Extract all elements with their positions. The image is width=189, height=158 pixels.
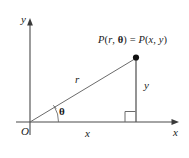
x-axis-arrowhead (172, 119, 180, 125)
adjacent-side-label: x (85, 128, 90, 139)
point-p-cartesian-close-paren: ) (164, 34, 168, 45)
angle-theta-label: θ (59, 106, 65, 117)
angle-arc (54, 107, 58, 123)
y-axis-arrowhead (27, 18, 33, 26)
point-p-marker (133, 54, 139, 60)
hypotenuse-label: r (75, 74, 79, 85)
origin-label: O (21, 126, 29, 137)
point-p-equals-sign: = (127, 34, 138, 45)
point-p-label: P(r, θ) = P(x, y) (98, 35, 167, 46)
opposite-side-label: y (144, 80, 149, 91)
hypotenuse-segment (30, 59, 136, 123)
x-axis-label: x (173, 127, 178, 138)
y-axis-label: y (21, 14, 26, 25)
polar-coordinates-diagram: y x O r θ x y P(r, θ) = P(x, y) (0, 0, 189, 158)
right-angle-marker (125, 112, 136, 123)
